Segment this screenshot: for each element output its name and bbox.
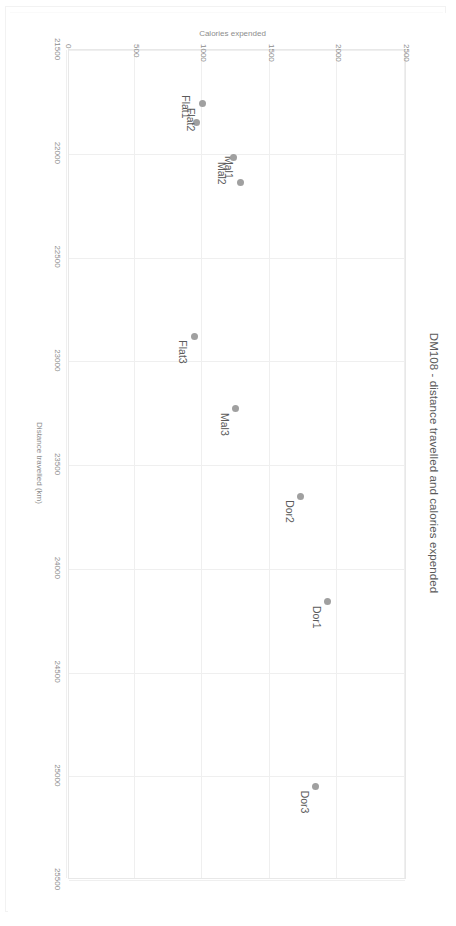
x-tick-label: 21500 (53, 38, 62, 60)
data-point[interactable] (237, 179, 244, 186)
data-point-label: Dor2 (284, 500, 296, 523)
x-tick-label: 23500 (53, 453, 62, 475)
gridline-vertical (69, 258, 405, 259)
data-point[interactable] (324, 598, 331, 605)
data-point-label: Dor1 (311, 606, 323, 629)
x-tick-label: 25500 (53, 868, 62, 890)
data-point[interactable] (297, 493, 304, 500)
x-tick-label: 22000 (53, 142, 62, 164)
gridline-vertical (69, 673, 405, 674)
chart-title: DM108 - distance travelled and calories … (428, 13, 440, 913)
screenshot-page: DM108 - distance travelled and calories … (0, 0, 456, 926)
x-tick-label: 24500 (53, 660, 62, 682)
x-tick-label: 22500 (53, 245, 62, 267)
gridline-horizontal (404, 50, 405, 878)
y-axis-title: Calories expended (113, 29, 353, 38)
gridline-horizontal (134, 50, 135, 878)
gridline-vertical (69, 880, 405, 881)
gridline-vertical (69, 569, 405, 570)
gridline-vertical (69, 50, 405, 51)
data-point-label: Mal3 (219, 413, 231, 436)
plot-area: Flat1Flat2Mal1Mal2Flat3Mal3Dor2Dor1Dor3 (68, 49, 406, 879)
data-point[interactable] (191, 333, 198, 340)
gridline-vertical (69, 465, 405, 466)
gridline-vertical (69, 776, 405, 777)
data-point-label: Mal2 (216, 162, 228, 185)
x-axis-title: Distance travelled (km) (35, 13, 44, 913)
gridline-horizontal (269, 50, 270, 878)
gridline-horizontal (66, 50, 67, 878)
data-point-label: Flat2 (185, 108, 197, 131)
gridline-vertical (69, 361, 405, 362)
x-tick-label: 23000 (53, 349, 62, 371)
data-point[interactable] (312, 783, 319, 790)
gridline-horizontal (201, 50, 202, 878)
gridline-horizontal (336, 50, 337, 878)
scatter-chart: DM108 - distance travelled and calories … (8, 13, 448, 913)
x-tick-label: 24000 (53, 557, 62, 579)
x-tick-label: 25000 (53, 764, 62, 786)
data-point[interactable] (199, 100, 206, 107)
data-point-label: Flat3 (177, 340, 189, 363)
data-point[interactable] (230, 154, 237, 161)
data-point-label: Dor3 (299, 791, 311, 814)
gridline-vertical (69, 154, 405, 155)
data-point[interactable] (233, 405, 240, 412)
